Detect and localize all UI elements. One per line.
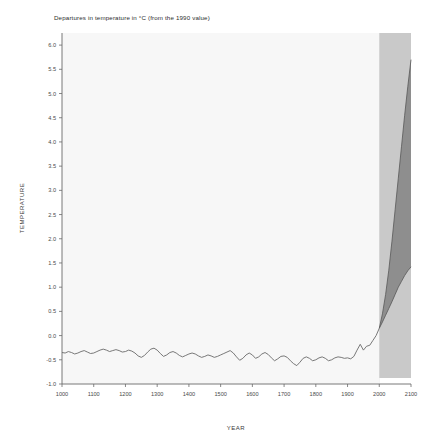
x-tick-label: 1400 — [183, 391, 195, 397]
y-tick-label: 1.0 — [48, 284, 56, 290]
x-tick-label: 1000 — [56, 391, 68, 397]
y-tick-label: 4.0 — [48, 139, 56, 145]
temperature-departures-chart: -1.0-0.50.00.51.01.52.02.53.03.54.04.55.… — [0, 0, 436, 444]
y-tick-label: 2.5 — [48, 212, 56, 218]
y-tick-label: 0.0 — [48, 333, 56, 339]
x-tick-label: 2100 — [405, 391, 417, 397]
y-tick-label: 0.5 — [48, 308, 56, 314]
x-tick-label: 1700 — [278, 391, 290, 397]
x-tick-label: 1100 — [88, 391, 100, 397]
y-tick-label: -1.0 — [46, 381, 56, 387]
x-axis-ticks: 1000110012001300140015001600170018001900… — [56, 384, 417, 397]
y-tick-label: 4.5 — [48, 115, 56, 121]
y-tick-label: 5.0 — [48, 91, 56, 97]
x-axis-title: YEAR — [227, 425, 246, 431]
y-tick-label: 6.0 — [48, 42, 56, 48]
chart-figure: Departures in temperature in °C (from th… — [0, 0, 436, 444]
y-axis-title: TEMPERATURE — [19, 183, 25, 233]
y-tick-label: 3.5 — [48, 163, 56, 169]
y-axis-ticks: -1.0-0.50.00.51.01.52.02.53.03.54.04.55.… — [46, 42, 62, 387]
y-tick-label: 3.0 — [48, 187, 56, 193]
y-tick-label: -0.5 — [46, 357, 56, 363]
plot-background — [62, 33, 411, 384]
y-tick-label: 5.5 — [48, 66, 56, 72]
x-tick-label: 1900 — [341, 391, 353, 397]
y-tick-label: 2.0 — [48, 236, 56, 242]
x-tick-label: 2000 — [373, 391, 385, 397]
y-tick-label: 1.5 — [48, 260, 56, 266]
x-tick-label: 1800 — [310, 391, 322, 397]
x-tick-label: 1300 — [151, 391, 163, 397]
x-tick-label: 1500 — [214, 391, 226, 397]
band-base-strip — [379, 378, 411, 384]
x-tick-label: 1200 — [119, 391, 131, 397]
x-tick-label: 1600 — [246, 391, 258, 397]
